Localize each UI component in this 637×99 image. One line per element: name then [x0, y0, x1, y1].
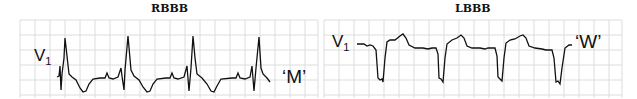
rbbb-ecg-panel: V1 ‘M’ — [0, 18, 320, 98]
lbbb-ecg-panel: V1 ‘W’ — [320, 18, 637, 98]
lbbb-lead-label: V1 — [332, 32, 349, 53]
lbbb-ecg-trace — [320, 18, 637, 98]
rbbb-lead-label: V1 — [34, 46, 51, 67]
rbbb-title: RBBB — [151, 2, 188, 15]
lbbb-title: LBBB — [455, 2, 491, 15]
rbbb-pattern-label: ‘M’ — [282, 66, 306, 88]
lbbb-pattern-label: ‘W’ — [575, 31, 601, 53]
